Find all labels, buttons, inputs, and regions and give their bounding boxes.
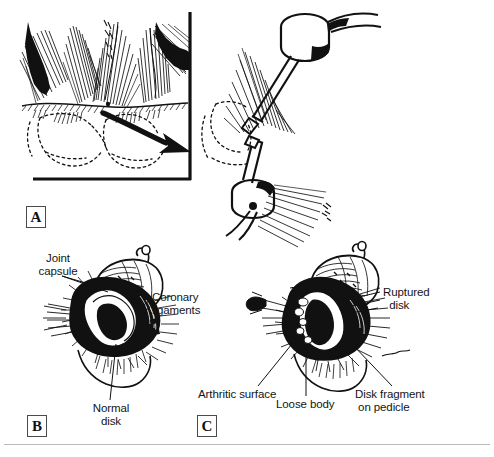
panel-letter-a: A <box>26 206 46 228</box>
panel-a-synovium <box>20 20 189 107</box>
annotation-joint-capsule: Joint capsule <box>25 252 91 277</box>
figure-bottom-rule <box>4 444 490 445</box>
annotation-loose-body: Loose body <box>276 398 348 411</box>
annotation-normal-disk: Normal disk <box>79 402 143 427</box>
annotation-coronary-ligaments: Coronary ligaments <box>152 291 232 316</box>
figure-root: A B C Joint capsule Coronary ligaments N… <box>0 0 494 457</box>
panel-letter-b: B <box>27 415 47 437</box>
panel-c-illustration <box>246 242 410 392</box>
panel-letter-c: C <box>197 415 217 437</box>
panel-a-right-dotted-outline <box>202 102 251 165</box>
annotation-ruptured-disk: Ruptured disk <box>383 286 459 311</box>
annotation-disk-fragment-on-pedicle: Disk fragment on pedicle <box>355 388 447 413</box>
panel-a-condyle-outline <box>28 114 163 168</box>
